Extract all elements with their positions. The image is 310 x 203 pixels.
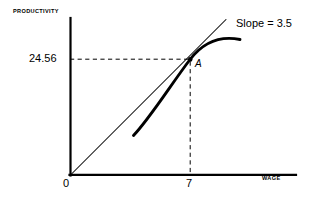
x-axis-tick-label: 7 [186,178,192,189]
point-a-marker [188,57,193,62]
y-axis-label: PRODUCTIVITY [13,9,59,15]
x-axis-label: WAGE [262,176,281,182]
origin-label: 0 [63,178,69,189]
tangent-ray-line [71,20,227,176]
y-axis-tick-label: 24.56 [29,53,57,64]
slope-annotation-label: Slope = 3.5 [236,18,292,29]
point-a-label: A [195,59,202,69]
productivity-wage-figure: PRODUCTIVITY WAGE 24.56 7 0 A Slope = 3.… [0,0,310,203]
chart-canvas [0,0,310,203]
productivity-curve [134,38,241,135]
